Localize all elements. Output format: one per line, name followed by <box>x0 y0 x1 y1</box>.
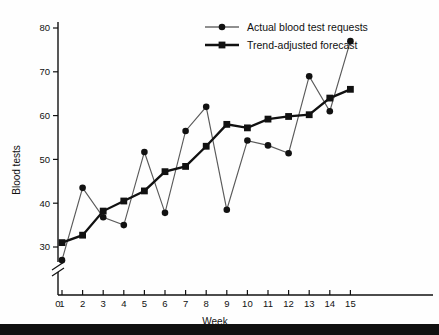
legend-marker-square <box>219 42 226 49</box>
data-point-actual <box>224 206 231 213</box>
data-point-actual <box>265 142 272 149</box>
y-tick-label: 30 <box>39 241 50 252</box>
data-point-actual <box>79 185 86 192</box>
data-point-forecast <box>265 116 272 123</box>
data-point-forecast <box>59 239 66 246</box>
y-axis: 304050607080 <box>39 22 64 295</box>
x-tick-label: 3 <box>101 298 106 309</box>
data-point-forecast <box>347 86 354 93</box>
x-tick-label: 2 <box>80 298 85 309</box>
y-tick-label: 60 <box>39 110 50 121</box>
data-point-actual <box>141 149 148 156</box>
line-chart-svg: 304050607080 0123456789101112131415 Actu… <box>0 0 439 335</box>
data-point-actual <box>203 104 210 111</box>
data-point-forecast <box>182 163 189 170</box>
data-point-forecast <box>326 95 333 102</box>
chart-legend: Actual blood test requestsTrend-adjusted… <box>205 21 368 51</box>
chart-figure: 304050607080 0123456789101112131415 Actu… <box>0 0 439 335</box>
x-tick-label: 10 <box>242 298 253 309</box>
legend-label: Trend-adjusted forecast <box>247 39 358 51</box>
data-point-forecast <box>120 198 127 205</box>
x-axis: 0123456789101112131415 <box>55 290 433 309</box>
x-tick-label: 9 <box>224 298 229 309</box>
data-point-actual <box>162 210 169 217</box>
data-point-forecast <box>223 121 230 128</box>
data-point-forecast <box>285 113 292 120</box>
y-tick-label: 50 <box>39 154 50 165</box>
data-point-actual <box>285 150 292 157</box>
x-tick-label: 4 <box>121 298 126 309</box>
x-tick-label: 6 <box>162 298 167 309</box>
data-point-forecast <box>141 188 148 195</box>
x-tick-label: 11 <box>263 298 273 309</box>
data-point-actual <box>59 257 66 264</box>
x-tick-label: 8 <box>204 298 209 309</box>
data-point-forecast <box>100 208 107 215</box>
data-point-forecast <box>203 143 210 150</box>
y-tick-label: 70 <box>39 66 50 77</box>
x-tick-label: 15 <box>345 298 356 309</box>
y-axis-title: Blood tests <box>11 145 22 194</box>
data-point-actual <box>306 73 313 80</box>
data-point-actual <box>121 222 128 229</box>
y-tick-label: 40 <box>39 198 50 209</box>
x-tick-label: 7 <box>183 298 188 309</box>
data-point-forecast <box>162 168 169 175</box>
data-point-actual <box>182 128 189 135</box>
page-edge-bar <box>0 324 439 335</box>
legend-label: Actual blood test requests <box>247 21 368 33</box>
data-point-actual <box>244 137 251 144</box>
data-point-forecast <box>79 232 86 239</box>
y-tick-label: 80 <box>39 22 50 33</box>
x-tick-label: 5 <box>142 298 147 309</box>
data-series-group <box>59 38 354 264</box>
x-tick-label: 14 <box>325 298 336 309</box>
data-point-forecast <box>306 111 313 118</box>
data-point-actual <box>327 108 334 115</box>
x-tick-label: 12 <box>283 298 294 309</box>
data-point-forecast <box>244 124 251 131</box>
legend-marker-circle <box>219 24 226 31</box>
x-tick-label: 1 <box>59 298 64 309</box>
x-tick-label: 13 <box>304 298 315 309</box>
